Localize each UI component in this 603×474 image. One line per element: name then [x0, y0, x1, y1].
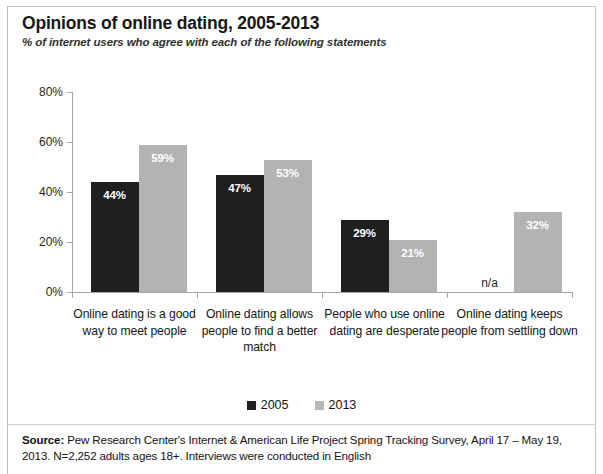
- bar-2013-group-4: 32%: [514, 212, 562, 292]
- y-tick-label: 20%: [39, 235, 63, 249]
- chart-page: Opinions of online dating, 2005-2013 % o…: [0, 0, 603, 474]
- y-tick-label: 0%: [46, 285, 63, 299]
- plot-area: 0%20%40%60%80% 44%59%47%53%29%21%n/a32%: [72, 92, 572, 292]
- bar-2013-group-3: 21%: [389, 240, 437, 293]
- source-text: Pew Research Center's Internet & America…: [22, 433, 562, 462]
- category-label-2: Online dating allows people to find a be…: [191, 306, 328, 356]
- bar-2005-group-1: 44%: [91, 182, 139, 292]
- y-tick-80: 80%: [72, 92, 73, 93]
- x-tick: [197, 292, 198, 298]
- chart-legend: 20052013: [0, 398, 603, 412]
- x-tick: [572, 292, 573, 298]
- x-tick: [322, 292, 323, 298]
- legend-swatch-icon: [247, 401, 256, 410]
- bar-value-label: 21%: [389, 247, 437, 259]
- bar-value-label: 32%: [514, 219, 562, 231]
- category-label-1: Online dating is a good way to meet peop…: [66, 306, 203, 339]
- bar-value-label: 47%: [216, 182, 264, 194]
- x-tick-origin: [72, 292, 73, 298]
- source-divider: [7, 424, 596, 425]
- legend-item-2005[interactable]: 2005: [247, 398, 289, 412]
- y-tick-60: 60%: [72, 142, 73, 143]
- y-tick-mark: [67, 92, 72, 93]
- y-tick-mark: [67, 142, 72, 143]
- y-tick-label: 80%: [39, 85, 63, 99]
- y-tick-label: 60%: [39, 135, 63, 149]
- legend-item-2013[interactable]: 2013: [315, 398, 357, 412]
- legend-label: 2013: [329, 398, 357, 412]
- bar-value-label: 59%: [139, 152, 187, 164]
- bar-value-label: 29%: [341, 227, 389, 239]
- legend-label: 2005: [261, 398, 289, 412]
- y-tick-20: 20%: [72, 242, 73, 243]
- bar-2013-group-2: 53%: [264, 160, 312, 293]
- bar-2005-group-2: 47%: [216, 175, 264, 293]
- chart-subtitle: % of internet users who agree with each …: [22, 36, 387, 48]
- bar-value-label: 44%: [91, 189, 139, 201]
- bar-value-label: 53%: [264, 167, 312, 179]
- category-label-4: Online dating keeps people from settling…: [441, 306, 578, 339]
- y-tick-mark: [67, 242, 72, 243]
- bar-2005-group-3: 29%: [341, 220, 389, 293]
- bar-na-label: n/a: [466, 276, 514, 290]
- y-tick-40: 40%: [72, 192, 73, 193]
- source-note: Source: Pew Research Center's Internet &…: [22, 432, 588, 463]
- x-tick: [447, 292, 448, 298]
- y-tick-mark: [67, 192, 72, 193]
- page-frame-top: [7, 6, 596, 7]
- chart-title: Opinions of online dating, 2005-2013: [22, 13, 319, 34]
- source-label: Source:: [22, 433, 64, 446]
- bar-2013-group-1: 59%: [139, 145, 187, 293]
- category-label-3: People who use online dating are despera…: [316, 306, 453, 339]
- legend-swatch-icon: [315, 401, 324, 410]
- y-tick-label: 40%: [39, 185, 63, 199]
